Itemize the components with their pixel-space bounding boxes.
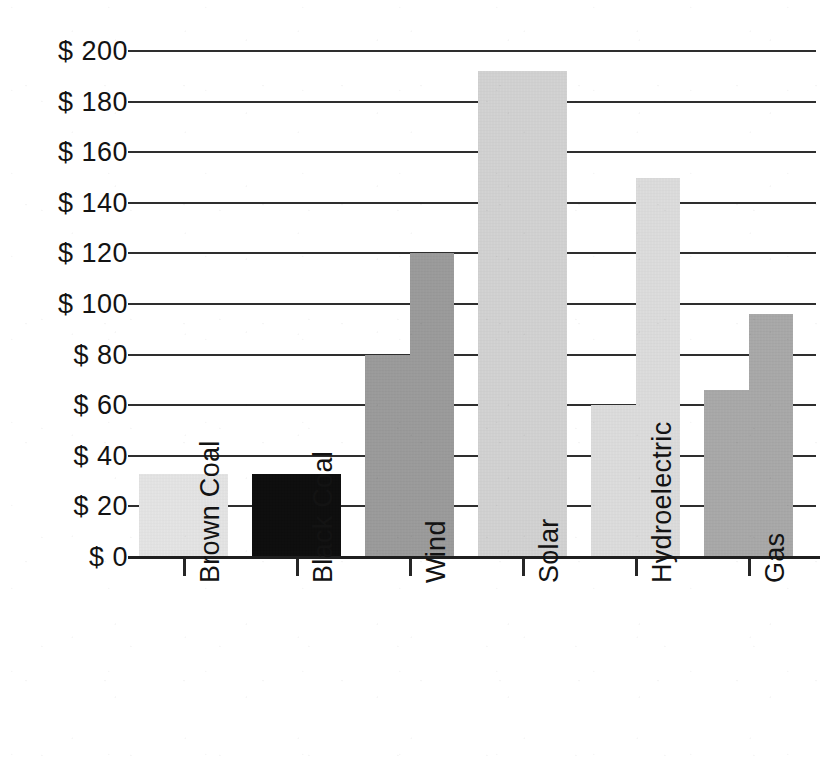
- x-axis-category-labels: Brown CoalBlack CoalWindSolarHydroelectr…: [128, 0, 836, 757]
- y-axis-tick-label: $ 160: [8, 137, 128, 168]
- category-label: Wind: [421, 520, 452, 583]
- category-label: Solar: [534, 518, 565, 583]
- y-axis-tick-label: $ 20: [8, 491, 128, 522]
- y-axis-tick-label: $ 140: [8, 187, 128, 218]
- y-axis-tick-label: $ 120: [8, 238, 128, 269]
- bar-chart: $ 200$ 180$ 160$ 140$ 120$ 100$ 80$ 60$ …: [0, 0, 836, 757]
- category-label: Brown Coal: [195, 440, 226, 583]
- y-axis-tick-label: $ 60: [8, 390, 128, 421]
- y-axis-tick-label: $ 200: [8, 36, 128, 67]
- category-label: Gas: [760, 533, 791, 583]
- y-axis-tick-label: $ 100: [8, 289, 128, 320]
- y-axis-tick-label: $ 180: [8, 86, 128, 117]
- y-axis-tick-labels: $ 200$ 180$ 160$ 140$ 120$ 100$ 80$ 60$ …: [0, 0, 128, 757]
- category-label: Black Coal: [308, 451, 339, 583]
- y-axis-tick-label: $ 80: [8, 339, 128, 370]
- y-axis-tick-label: $ 0: [8, 542, 128, 573]
- y-axis-tick-label: $ 40: [8, 440, 128, 471]
- category-label: Hydroelectric: [647, 422, 678, 583]
